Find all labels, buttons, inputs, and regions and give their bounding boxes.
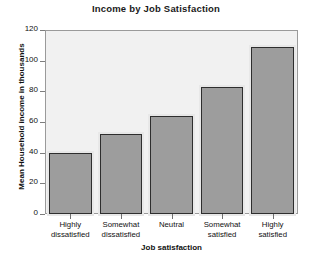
bar[interactable] [251,47,294,214]
bar[interactable] [49,153,92,214]
y-tick-label: 120 [25,24,38,33]
bar-slot [197,30,248,214]
bar[interactable] [100,134,143,214]
bar-slot [146,30,197,214]
x-tick-mark [121,214,122,219]
x-category-label-line: Highly [241,220,304,230]
y-tick-label: 60 [29,116,38,125]
x-axis-label: Job satisfaction [45,243,298,252]
bar-slot [45,30,96,214]
y-tick-label: 100 [25,55,38,64]
x-category-label-line: satisfied [241,230,304,240]
bar[interactable] [150,116,193,214]
y-tick: 0 [0,214,45,215]
bar-slot [247,30,298,214]
y-tick-label: 0 [34,208,38,217]
x-category-label-line: dissatisfied [90,230,153,240]
y-tick-label: 40 [29,147,38,156]
bar-slot [96,30,147,214]
bar[interactable] [201,87,244,214]
x-axis-category-labels: HighlydissatisfiedSomewhatdissatisfiedNe… [45,220,298,244]
bar-chart: Income by Job Satisfaction Mean Househol… [0,0,312,259]
x-category-label: Highlysatisfied [241,220,304,239]
bars-group [45,30,298,214]
y-tick-label: 20 [29,177,38,186]
y-tick: 120 [0,30,45,31]
x-tick-mark [273,214,274,219]
y-tick: 20 [0,183,45,184]
y-tick: 60 [0,122,45,123]
y-tick: 100 [0,61,45,62]
x-tick-mark [172,214,173,219]
x-tick-mark [222,214,223,219]
y-tick: 40 [0,153,45,154]
y-tick-label: 80 [29,85,38,94]
chart-title: Income by Job Satisfaction [0,3,312,14]
y-tick: 80 [0,91,45,92]
x-tick-mark [70,214,71,219]
